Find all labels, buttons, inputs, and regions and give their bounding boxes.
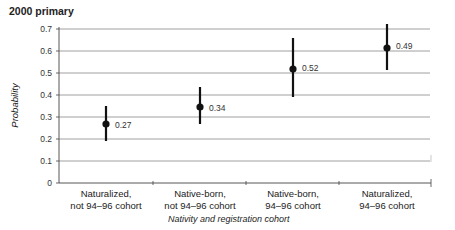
data-point-1: 0.27 [102,106,131,141]
svg-text:0.4: 0.4 [40,90,52,100]
data-point-3: 0.52 [289,38,318,97]
x-axis-ticks [153,155,431,187]
svg-text:0.52: 0.52 [302,63,319,73]
category-line-1: Naturalized, [332,188,442,200]
svg-text:0.27: 0.27 [115,120,132,130]
data-point-4: 0.49 [383,24,412,70]
svg-text:0.7: 0.7 [40,24,52,34]
svg-text:0.49: 0.49 [396,41,413,51]
y-tick-labels: 0 0.1 0.2 0.3 0.4 0.5 0.6 0.7 [40,24,52,188]
svg-text:0.1: 0.1 [40,156,52,166]
x-category-4: Naturalized, 94–96 cohort [332,188,442,212]
svg-text:0: 0 [47,178,52,188]
category-line-2: 94–96 cohort [332,200,442,212]
x-axis-label: Nativity and registration cohort [168,214,290,224]
svg-text:0.5: 0.5 [40,68,52,78]
svg-text:0.6: 0.6 [40,46,52,56]
svg-text:0.3: 0.3 [40,112,52,122]
data-point-2: 0.34 [196,87,225,124]
svg-text:0.2: 0.2 [40,134,52,144]
svg-text:0.34: 0.34 [209,103,226,113]
gridlines [59,29,430,161]
